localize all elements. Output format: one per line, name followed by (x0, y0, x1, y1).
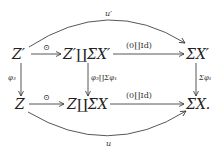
label-left-vertical: φ₃ (8, 74, 16, 82)
node-top-mid: Z′∐ΣX′ (63, 47, 110, 61)
label-bot-arrow-1: ⊙ (43, 94, 50, 102)
node-top-left: Z′ (12, 47, 25, 61)
label-top-arrow-1: ⊙ (43, 44, 50, 52)
node-top-right: ΣX′ (186, 47, 209, 61)
label-right-vertical: Σφ₁ (199, 74, 212, 82)
label-mid-vertical: φ₃∐Σφ₁ (91, 74, 117, 82)
label-bot-curve: u (106, 140, 111, 148)
label-top-curve: u′ (105, 10, 112, 18)
top-curve-arrow (29, 20, 185, 47)
node-bot-right: ΣX. (186, 97, 210, 111)
node-bot-left: Z (15, 97, 25, 111)
label-top-arrow-2: (0∐Id) (126, 42, 152, 50)
node-bot-mid: Z∐ΣX (67, 97, 108, 111)
label-bot-arrow-2: (0∐Id) (126, 92, 152, 100)
bot-curve-arrow (28, 111, 186, 136)
